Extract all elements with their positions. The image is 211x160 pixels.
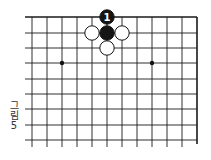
stone-move-number: 1 xyxy=(104,12,111,23)
caption-char-3: 5 xyxy=(8,121,20,131)
star-point-icon xyxy=(60,61,64,65)
black-stone: 1 xyxy=(100,10,114,24)
white-stone xyxy=(115,26,129,40)
star-point-icon xyxy=(150,61,154,65)
white-stone xyxy=(100,41,114,55)
figure-caption: 그 림 5 xyxy=(8,101,20,131)
white-stone xyxy=(85,26,99,40)
black-stone xyxy=(100,26,114,40)
go-board-diagram: 1 xyxy=(0,0,211,160)
